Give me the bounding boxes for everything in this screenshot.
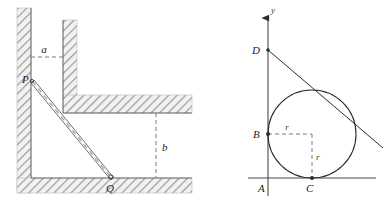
label-point-b: B <box>253 128 260 140</box>
point-c-marker <box>310 176 314 180</box>
inner-wall-hatched <box>63 20 77 96</box>
label-point-d: D <box>251 44 260 56</box>
label-y-axis: y <box>270 5 275 15</box>
label-point-q: Q <box>106 182 114 194</box>
label-point-p: P <box>21 73 29 85</box>
figure-root: a b P Q y <box>0 0 383 201</box>
floor-hatched <box>17 178 192 193</box>
label-b: b <box>162 141 168 153</box>
label-point-a: A <box>257 182 265 194</box>
label-a: a <box>41 43 47 55</box>
point-d-marker <box>266 48 270 52</box>
right-panel: y D B A C r r <box>248 5 383 196</box>
label-radius-horizontal: r <box>285 122 289 132</box>
figure-svg: a b P Q y <box>0 0 383 201</box>
label-point-c: C <box>306 182 314 194</box>
left-wall-hatched <box>17 8 31 193</box>
label-radius-vertical: r <box>316 152 320 162</box>
inner-room-outline <box>31 8 192 178</box>
shelf-hatched <box>63 95 192 113</box>
point-b-marker <box>266 132 270 136</box>
left-panel: a b P Q <box>17 8 192 194</box>
